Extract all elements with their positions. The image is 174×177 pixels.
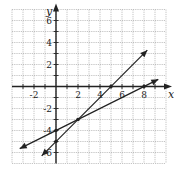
coordinate-plane: -22468642-2-4-6xy	[0, 0, 174, 177]
point-marker	[142, 85, 146, 89]
intersection-point	[76, 118, 80, 122]
y-axis-arrow-icon	[53, 4, 59, 12]
x-tick-label: 2	[75, 90, 81, 100]
y-tick-label: -2	[43, 104, 52, 114]
x-tick-label: 4	[97, 90, 103, 100]
x-axis-label: x	[168, 88, 174, 101]
y-tick-label: -6	[43, 148, 52, 158]
axes	[12, 4, 172, 164]
point-marker	[54, 140, 58, 144]
x-tick-label: 8	[141, 90, 147, 100]
x-tick-label: -2	[30, 90, 39, 100]
point-marker	[109, 85, 113, 89]
y-tick-label: -4	[43, 126, 52, 136]
point-marker	[54, 129, 58, 133]
y-axis-label: y	[45, 5, 53, 18]
line-1	[42, 50, 148, 156]
y-tick-label: 4	[46, 38, 52, 48]
x-tick-label: 6	[119, 90, 125, 100]
y-tick-label: 2	[46, 60, 52, 70]
